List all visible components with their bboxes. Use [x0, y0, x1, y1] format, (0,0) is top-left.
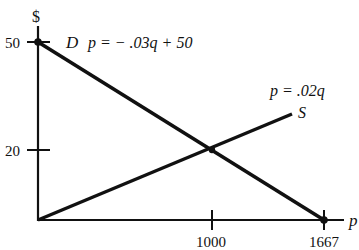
equilibrium-point — [209, 147, 215, 153]
demand-x-intercept-point — [320, 216, 328, 224]
demand-y-intercept-point — [34, 38, 42, 46]
y-axis-label: $ — [32, 8, 40, 25]
x-tick-label-1667: 1667 — [309, 234, 340, 250]
y-tick-label-20: 20 — [5, 143, 20, 159]
demand-equation-label: p = − .03q + 50 — [87, 34, 192, 52]
y-tick-label-50: 50 — [5, 35, 20, 51]
supply-equation-label: p = .02q — [269, 82, 325, 100]
supply-name-label: S — [298, 104, 306, 121]
demand-line — [38, 42, 324, 220]
x-axis-label: p — [348, 211, 358, 230]
supply-demand-chart: $ 50 20 1000 1667 p D p = − .03q + 50 p … — [0, 0, 359, 250]
supply-line — [38, 114, 292, 220]
demand-name-label: D — [65, 33, 79, 52]
x-tick-label-1000: 1000 — [196, 234, 226, 250]
